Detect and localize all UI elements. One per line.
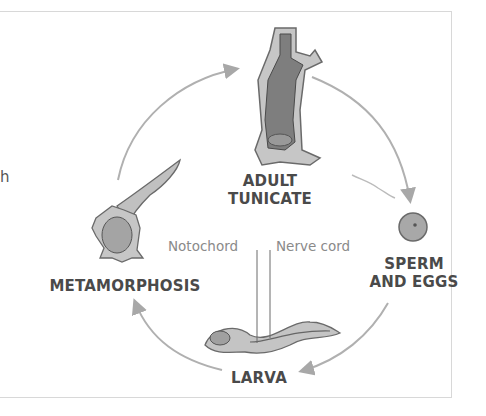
arrow-adult-to-gametes: [312, 77, 410, 200]
stage-label-larva: LARVA: [214, 369, 304, 387]
adult-label-line2: TUNICATE: [220, 190, 320, 208]
life-cycle-artwork: [0, 0, 486, 416]
gametes-label-line2: AND EGGS: [367, 273, 461, 291]
stage-label-gametes: SPERM AND EGGS: [367, 255, 461, 291]
clipped-side-text: h: [0, 168, 10, 186]
notochord-label: Notochord: [168, 238, 238, 254]
sperm-squiggle-icon: [352, 175, 395, 198]
stage-label-adult: ADULT TUNICATE: [220, 172, 320, 208]
adult-label-line1: ADULT: [220, 172, 320, 190]
gametes-label-line1: SPERM: [367, 255, 461, 273]
adult-tunicate-illustration: [255, 28, 322, 165]
egg-illustration: [399, 213, 427, 241]
arrow-larva-to-metamorphosis: [135, 302, 222, 370]
pointer-lines: [257, 250, 270, 343]
nerve-cord-label: Nerve cord: [276, 238, 350, 254]
larva-illustration: [205, 322, 340, 353]
stage-label-metamorphosis: METAMORPHOSIS: [40, 277, 210, 295]
metamorphosis-illustration: [92, 160, 180, 262]
